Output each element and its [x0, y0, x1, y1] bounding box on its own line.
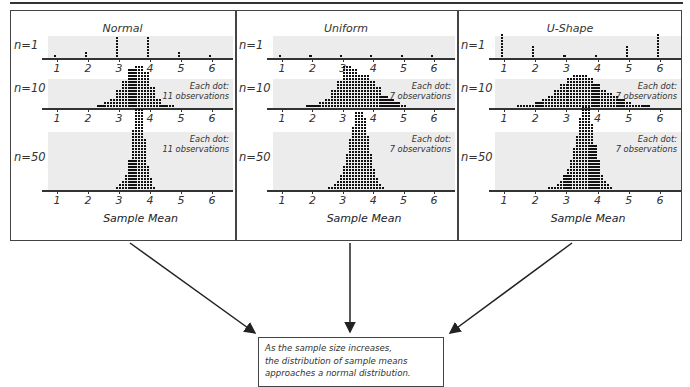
- conclusion-line: As the sample size increases,: [265, 342, 437, 355]
- arrow-left: [130, 243, 255, 333]
- conclusion-box: As the sample size increases, the distri…: [258, 337, 444, 387]
- arrow-right: [450, 243, 572, 333]
- conclusion-line: approaches a normal distribution.: [265, 367, 437, 380]
- conclusion-line: the distribution of sample means: [265, 355, 437, 368]
- arrows: [0, 0, 690, 387]
